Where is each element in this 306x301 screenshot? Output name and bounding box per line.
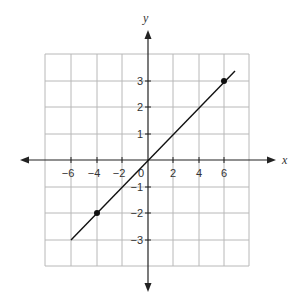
x-tick-label: 6 — [221, 167, 227, 179]
y-tick-label: 2 — [137, 101, 143, 113]
x-tick-label: −4 — [88, 167, 101, 179]
y-tick-label: −3 — [130, 234, 143, 246]
x-tick-label: 4 — [196, 167, 202, 179]
x-tick-label: −2 — [113, 167, 126, 179]
x-axis-label: x — [281, 153, 288, 167]
y-axis-down-arrow-icon — [145, 283, 152, 292]
y-tick-label: 3 — [137, 75, 143, 87]
coordinate-plane: x y −6 −4 −2 0 2 4 6 3 2 1 −1 −2 −3 — [0, 0, 306, 301]
x-tick-label: −6 — [62, 167, 75, 179]
data-point — [221, 78, 227, 84]
y-tick-label: 1 — [137, 128, 143, 140]
x-axis-right-arrow-icon — [267, 157, 276, 164]
x-axis-left-arrow-icon — [20, 157, 29, 164]
x-tick-label: 2 — [170, 167, 176, 179]
data-point — [94, 210, 100, 216]
y-tick-label: −2 — [130, 207, 143, 219]
x-tick-labels: −6 −4 −2 0 2 4 6 — [62, 167, 227, 179]
y-axis-label: y — [142, 11, 149, 25]
y-tick-label: −1 — [130, 181, 143, 193]
y-axis-up-arrow-icon — [145, 30, 152, 39]
